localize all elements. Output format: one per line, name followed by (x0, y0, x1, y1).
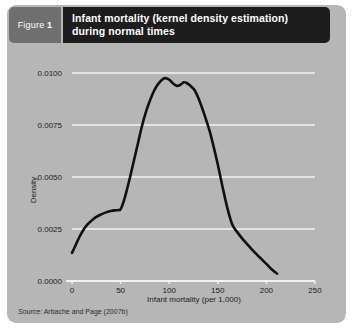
y-axis-title: Density (29, 177, 38, 204)
x-axis-title: Infant mortality (per 1,000) (147, 295, 241, 304)
y-tick-label: 0.0050 (38, 173, 63, 182)
x-tick-label: 0 (70, 286, 75, 295)
x-tick-label: 200 (260, 286, 274, 295)
chart-canvas: 0.00000.00250.00500.00750.0100 050100150… (0, 0, 353, 335)
y-tick-label: 0.0075 (38, 121, 63, 130)
density-curve-line (72, 78, 277, 274)
source-prefix: Source: (18, 308, 42, 315)
gridlines (72, 73, 315, 229)
source-text: Arbache and Page (2007b) (44, 308, 128, 315)
x-tick-labels: 050100150200250 (70, 286, 322, 295)
x-tick-label: 100 (163, 286, 177, 295)
y-tick-label: 0.0000 (38, 277, 63, 286)
y-tick-label: 0.0025 (38, 225, 63, 234)
x-tick-label: 250 (308, 286, 322, 295)
source-note: Source: Arbache and Page (2007b) (18, 308, 128, 315)
x-tick-label: 150 (211, 286, 225, 295)
y-tick-label: 0.0100 (38, 69, 63, 78)
x-tick-label: 50 (116, 286, 125, 295)
density-chart: 0.00000.00250.00500.00750.0100 050100150… (0, 0, 353, 335)
y-tick-labels: 0.00000.00250.00500.00750.0100 (38, 69, 63, 286)
